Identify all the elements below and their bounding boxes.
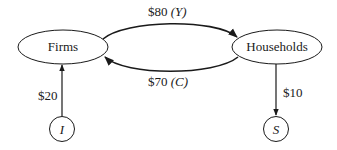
income-flow-label: $80 (Y) xyxy=(148,5,187,18)
income-symbol: (Y) xyxy=(171,4,187,19)
consumption-symbol: (C) xyxy=(171,74,188,89)
income-amount: $80 xyxy=(148,4,168,19)
firms-node-label: Firms xyxy=(18,40,108,53)
investment-node-label: I xyxy=(52,123,72,136)
income-flow-arrow xyxy=(103,24,237,39)
saving-amount-label: $10 xyxy=(283,86,303,99)
consumption-flow-label: $70 (C) xyxy=(148,75,188,88)
consumption-flow-arrow xyxy=(105,57,238,71)
households-node-label: Households xyxy=(232,40,322,53)
saving-node-label: S xyxy=(266,123,286,136)
investment-amount-label: $20 xyxy=(38,89,58,102)
consumption-amount: $70 xyxy=(148,74,168,89)
